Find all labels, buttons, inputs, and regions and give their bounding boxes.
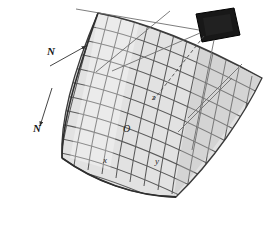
label-axis-x: x <box>102 155 107 165</box>
dimension-arrow-cols <box>40 88 52 126</box>
reflector-diagram: N N O x y z <box>0 0 279 233</box>
feed-element <box>196 8 240 42</box>
label-origin: O <box>123 123 130 134</box>
reflector-surface <box>54 10 266 233</box>
diagram-canvas: N N O x y z <box>0 0 279 233</box>
label-axis-y: y <box>154 156 159 166</box>
label-n-rows: N <box>46 45 56 57</box>
label-n-cols: N <box>32 122 42 134</box>
label-axis-z: z <box>151 92 156 102</box>
